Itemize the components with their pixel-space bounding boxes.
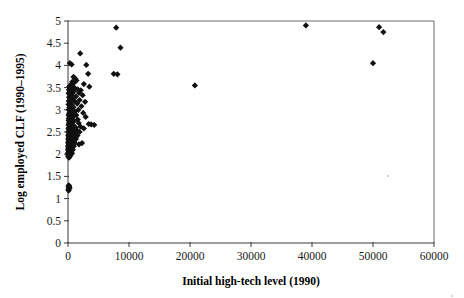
data-point-marker (77, 50, 83, 56)
data-point-marker (192, 82, 198, 88)
y-tick-label: 1 (55, 193, 61, 205)
x-tick-label: 20000 (176, 250, 205, 262)
x-axis-tick-labels: 0100002000030000400005000060000 (65, 250, 449, 262)
chart-canvas: 00.511.522.533.544.55 010000200003000040… (0, 0, 464, 298)
y-tick-label: 2 (55, 148, 61, 160)
data-point-marker (370, 60, 376, 66)
data-point-marker (303, 22, 309, 28)
y-axis-title: Log employed CLF (1990–1995) (14, 53, 27, 210)
x-tick-label: 60000 (420, 250, 449, 262)
y-tick-label: 5 (55, 15, 61, 27)
x-tick-label: 10000 (115, 250, 144, 262)
x-tick-label: 40000 (298, 250, 327, 262)
y-tick-label: 3.5 (47, 82, 62, 94)
data-point-marker (83, 62, 89, 68)
data-point-marker (376, 24, 382, 30)
scan-artifact-speck-2 (451, 295, 453, 297)
data-point-marker (82, 99, 88, 105)
scatter-data-points (65, 22, 386, 193)
y-tick-label: 3 (55, 104, 61, 116)
x-axis-title: Initial high-tech level (1990) (182, 275, 320, 288)
data-point-marker (85, 71, 91, 77)
y-tick-label: 0.5 (47, 215, 62, 227)
y-axis-tick-labels: 00.511.522.533.544.55 (47, 15, 62, 249)
y-tick-label: 4.5 (47, 37, 62, 49)
y-tick-label: 0 (55, 237, 61, 249)
scan-artifact-speck (387, 175, 389, 177)
x-tick-label: 0 (65, 250, 71, 262)
y-tick-label: 2.5 (47, 126, 62, 138)
data-point-marker (86, 84, 92, 90)
y-tick-label: 4 (55, 59, 61, 71)
data-point-marker (114, 71, 120, 77)
x-tick-label: 50000 (359, 250, 388, 262)
plot-frame (68, 21, 434, 243)
y-tick-label: 1.5 (47, 170, 62, 182)
x-tick-label: 30000 (237, 250, 266, 262)
data-point-marker (117, 45, 123, 51)
data-point-marker (81, 81, 87, 87)
data-point-marker (380, 29, 386, 35)
data-point-marker (113, 25, 119, 31)
scatter-plot-figure: 00.511.522.533.544.55 010000200003000040… (0, 0, 464, 298)
